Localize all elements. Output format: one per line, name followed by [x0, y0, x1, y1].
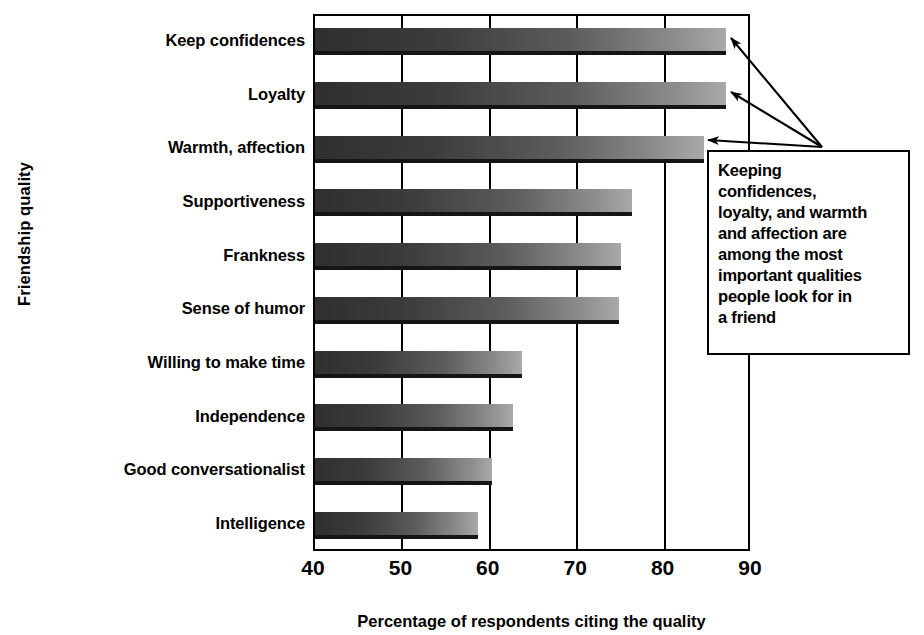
- bar-fill: [315, 189, 632, 212]
- bar-shadow: [315, 427, 513, 431]
- callout-line-2: confidences,: [718, 181, 902, 202]
- x-tick-label-40: 40: [283, 556, 343, 580]
- category-label-good-conversationalist: Good conversationalist: [0, 460, 305, 479]
- x-tick-label-70: 70: [545, 556, 605, 580]
- bars: [315, 16, 748, 549]
- callout-line-6: important qualities: [718, 265, 902, 286]
- bar-shadow: [315, 266, 621, 270]
- plot-area: [313, 14, 750, 551]
- x-axis-tick-labels: 405060708090: [0, 556, 924, 586]
- bar: [315, 28, 726, 55]
- bar-shadow: [315, 51, 726, 55]
- category-label-sense-of-humor: Sense of humor: [0, 299, 305, 318]
- callout-line-4: and affection are: [718, 223, 902, 244]
- bar-shadow: [315, 320, 619, 324]
- callout-line-8: a friend: [718, 307, 902, 328]
- bar-shadow: [315, 105, 726, 109]
- y-axis-category-labels: Keep confidencesLoyaltyWarmth, affection…: [0, 14, 305, 551]
- callout-line-5: among the most: [718, 244, 902, 265]
- bar-shadow: [315, 481, 492, 485]
- x-tick-label-80: 80: [633, 556, 693, 580]
- callout-line-1: Keeping: [718, 160, 902, 181]
- bar-shadow: [315, 159, 704, 163]
- bar: [315, 458, 492, 485]
- bar-fill: [315, 458, 492, 481]
- bar-fill: [315, 512, 478, 535]
- bar: [315, 243, 621, 270]
- bar-fill: [315, 297, 619, 320]
- callout-line-7: people look for in: [718, 286, 902, 307]
- bar-shadow: [315, 535, 478, 539]
- x-tick-label-50: 50: [370, 556, 430, 580]
- bar: [315, 351, 522, 378]
- category-label-intelligence: Intelligence: [0, 514, 305, 533]
- bar-fill: [315, 28, 726, 51]
- bar-fill: [315, 82, 726, 105]
- callout-textbox: Keepingconfidences,loyalty, and warmthan…: [707, 150, 910, 355]
- category-label-keep-confidences: Keep confidences: [0, 31, 305, 50]
- bar-fill: [315, 351, 522, 374]
- bar: [315, 512, 478, 539]
- category-label-independence: Independence: [0, 407, 305, 426]
- bar-chart: Friendship quality Keep confidencesLoyal…: [0, 0, 924, 635]
- category-label-willing-to-make-time: Willing to make time: [0, 353, 305, 372]
- bar: [315, 404, 513, 431]
- bar-fill: [315, 136, 704, 159]
- bar-shadow: [315, 374, 522, 378]
- category-label-loyalty: Loyalty: [0, 85, 305, 104]
- bar: [315, 189, 632, 216]
- bar-fill: [315, 404, 513, 427]
- bar-shadow: [315, 212, 632, 216]
- category-label-warmth-affection: Warmth, affection: [0, 138, 305, 157]
- bar: [315, 297, 619, 324]
- category-label-frankness: Frankness: [0, 246, 305, 265]
- x-tick-label-90: 90: [720, 556, 780, 580]
- bar: [315, 82, 726, 109]
- x-tick-label-60: 60: [458, 556, 518, 580]
- x-axis-title: Percentage of respondents citing the qua…: [313, 612, 750, 631]
- category-label-supportiveness: Supportiveness: [0, 192, 305, 211]
- callout-line-3: loyalty, and warmth: [718, 202, 902, 223]
- bar: [315, 136, 704, 163]
- bar-fill: [315, 243, 621, 266]
